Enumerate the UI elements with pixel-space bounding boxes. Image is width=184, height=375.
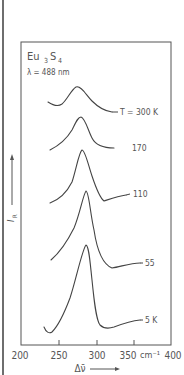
curve-170k bbox=[50, 117, 114, 150]
x-axis-label: Δν̄ bbox=[74, 363, 85, 374]
wavelength-label: λ = 488 nm bbox=[27, 68, 69, 77]
svg-text:S: S bbox=[50, 50, 56, 63]
compound-title: Eu 3 S 4 bbox=[27, 50, 62, 65]
label-5k: 5 K bbox=[145, 315, 158, 325]
label-55k: 55 bbox=[145, 258, 155, 268]
curve-300k bbox=[48, 87, 112, 112]
y-axis-arrow-icon bbox=[10, 154, 14, 205]
label-300k: T = 300 K bbox=[119, 107, 159, 117]
y-axis-label: I R bbox=[6, 214, 18, 222]
svg-text:4: 4 bbox=[58, 57, 62, 65]
tick-400: 400 bbox=[164, 350, 181, 361]
svg-text:I: I bbox=[6, 219, 16, 222]
tick-350: 350 bbox=[119, 350, 136, 361]
tick-200: 200 bbox=[11, 350, 28, 361]
svg-text:R: R bbox=[11, 214, 18, 218]
raman-spectra-chart: 200 250 300 350 400 cm⁻¹ Δν̄ I R Eu 3 S … bbox=[0, 0, 184, 375]
curve-5k bbox=[44, 245, 140, 333]
svg-text:3: 3 bbox=[44, 57, 48, 65]
tick-300: 300 bbox=[88, 350, 105, 361]
x-axis-arrow-icon bbox=[90, 367, 120, 371]
curve-55k bbox=[51, 191, 140, 268]
label-170k: 170 bbox=[132, 143, 147, 153]
plot-frame bbox=[21, 42, 171, 345]
x-axis-ticks bbox=[59, 340, 134, 345]
x-unit-label: cm⁻¹ bbox=[140, 350, 160, 360]
svg-text:Eu: Eu bbox=[27, 50, 40, 63]
label-110k: 110 bbox=[133, 189, 148, 199]
tick-250: 250 bbox=[50, 350, 67, 361]
